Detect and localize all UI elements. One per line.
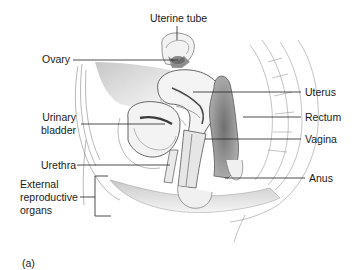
panel-label: (a) xyxy=(22,257,35,270)
label-anus: Anus xyxy=(309,172,333,185)
label-vagina: Vagina xyxy=(305,133,337,146)
leader-external-organs-bracket xyxy=(80,176,111,216)
label-uterine-tube: Uterine tube xyxy=(150,12,207,25)
vagina-drawing xyxy=(178,130,206,188)
label-external-line1: External xyxy=(20,178,78,191)
urethra-drawing xyxy=(164,150,178,183)
label-urethra: Urethra xyxy=(41,159,76,172)
uterine-tube-drawing xyxy=(162,33,195,68)
label-urinary-bladder-line2: bladder xyxy=(41,124,76,137)
label-external-reproductive-organs: External reproductive organs xyxy=(20,178,78,217)
label-urinary-bladder-line1: Urinary xyxy=(41,111,76,124)
label-uterus: Uterus xyxy=(305,86,336,99)
label-ovary: Ovary xyxy=(42,53,70,66)
label-external-line3: organs xyxy=(20,204,78,217)
label-external-line2: reproductive xyxy=(20,191,78,204)
label-rectum: Rectum xyxy=(305,111,341,124)
label-urinary-bladder: Urinary bladder xyxy=(41,111,76,136)
